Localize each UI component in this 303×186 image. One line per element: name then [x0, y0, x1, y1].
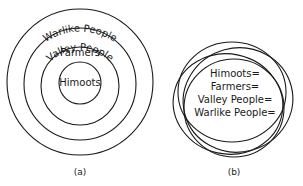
label-himoots: Himoots — [59, 77, 100, 88]
diagram-b-labels: Himoots= Farmers= Valley People= Warlike… — [194, 68, 275, 118]
label-valley-people-eq: Valley People= — [198, 94, 273, 105]
label-farmers: Farmers — [60, 47, 100, 58]
diagram-canvas: Warlike People Valley People Farmers Him… — [0, 0, 303, 186]
label-warlike-people: Warlike People — [41, 23, 119, 44]
label-farmers-eq: Farmers= — [211, 81, 260, 92]
caption-b: (b) — [228, 167, 241, 177]
caption-a: (a) — [74, 167, 87, 177]
label-warlike-people-eq: Warlike People= — [194, 107, 275, 118]
label-himoots-eq: Himoots= — [210, 68, 260, 79]
